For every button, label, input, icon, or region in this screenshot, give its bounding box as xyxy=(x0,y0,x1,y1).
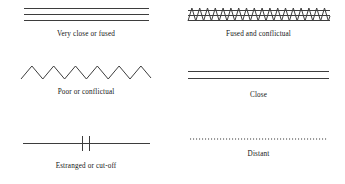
legend-item-label: Poor or conflictual xyxy=(58,89,115,96)
symbol-three-parallel-lines xyxy=(0,0,172,23)
legend-item-poor-or-conflictual: Poor or conflictual xyxy=(0,58,172,120)
legend-item-very-close-or-fused: Very close or fused xyxy=(0,0,172,58)
symbol-two-parallel-lines xyxy=(172,58,345,80)
symbol-three-parallel-lines-with-zigzag-overlay xyxy=(172,0,345,23)
symbol-zigzag-line xyxy=(0,58,172,80)
legend-item-fused-and-conflictual: Fused and conflictual xyxy=(172,0,345,58)
legend-item-label: Fused and conflictual xyxy=(226,31,291,38)
legend-item-label: Distant xyxy=(248,151,270,158)
legend-item-estranged-or-cut-off: Estranged or cut-off xyxy=(0,120,172,184)
legend-item-close: Close xyxy=(172,58,345,120)
symbol-dotted-line xyxy=(172,120,345,141)
legend-item-distant: Distant xyxy=(172,120,345,184)
legend-item-label: Estranged or cut-off xyxy=(56,163,117,170)
legend-item-label: Very close or fused xyxy=(57,31,115,38)
symbol-line-with-two-cross-hatches xyxy=(0,120,172,152)
legend-item-label: Close xyxy=(250,92,267,99)
relationship-legend-grid: Very close or fused Fused and conflictua… xyxy=(0,0,345,184)
